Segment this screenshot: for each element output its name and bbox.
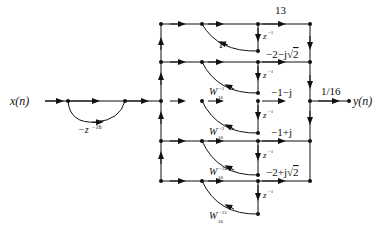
svg-text:−14: −14 bbox=[219, 166, 227, 171]
svg-text:z: z bbox=[262, 110, 267, 120]
svg-text:16: 16 bbox=[218, 175, 224, 180]
svg-text:z: z bbox=[262, 190, 267, 200]
feedback-label-3: W −14 16 bbox=[209, 166, 227, 180]
svg-text:16: 16 bbox=[218, 135, 224, 140]
svg-text:−1: −1 bbox=[268, 189, 274, 194]
frequency-sampling-flow-graph: x(n) y(n) 1/16 −z −16 13 −2−j√2 −1−j −1+… bbox=[0, 0, 380, 234]
coef-1: −2−j√2 bbox=[266, 48, 299, 60]
svg-text:−1: −1 bbox=[219, 86, 225, 91]
svg-text:z: z bbox=[262, 70, 267, 80]
svg-text:−1: −1 bbox=[268, 109, 274, 114]
svg-text:z: z bbox=[262, 31, 267, 41]
svg-text:−1: −1 bbox=[268, 30, 274, 35]
branch-4 bbox=[161, 181, 310, 214]
output-label: y(n) bbox=[352, 94, 372, 108]
branch-0 bbox=[161, 24, 310, 51]
svg-text:16: 16 bbox=[218, 219, 224, 224]
feedback-label-0: 1 bbox=[218, 38, 224, 50]
feedback-label-2: W −2 16 bbox=[209, 126, 225, 140]
svg-text:16: 16 bbox=[218, 95, 224, 100]
svg-text:−15: −15 bbox=[219, 210, 227, 215]
svg-text:z: z bbox=[262, 150, 267, 160]
comb-exp-label: −16 bbox=[92, 124, 101, 130]
svg-text:−1: −1 bbox=[268, 149, 274, 154]
comb-arc bbox=[68, 101, 125, 122]
feedback-label-4: W −15 16 bbox=[209, 210, 227, 224]
comb-gain-label: −z bbox=[78, 124, 89, 135]
input-label: x(n) bbox=[9, 94, 29, 108]
output-gain-label: 1/16 bbox=[321, 85, 341, 97]
feedback-label-1: W −1 16 bbox=[209, 86, 225, 100]
coef-4: −2+j√2 bbox=[266, 166, 299, 178]
svg-text:−1: −1 bbox=[268, 69, 274, 74]
coef-3: −1+j bbox=[271, 126, 292, 138]
coef-0: 13 bbox=[275, 4, 287, 16]
svg-text:−2: −2 bbox=[219, 126, 225, 131]
coef-2: −1−j bbox=[271, 86, 292, 98]
